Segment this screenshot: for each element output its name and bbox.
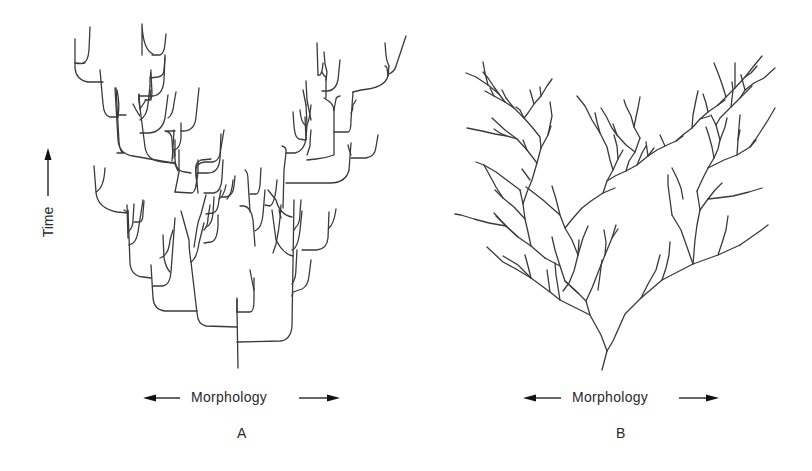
morphology-arrow-b-icon: [0, 0, 812, 471]
panel-label-b: B: [616, 425, 625, 441]
morphology-label-b: Morphology: [572, 389, 648, 405]
